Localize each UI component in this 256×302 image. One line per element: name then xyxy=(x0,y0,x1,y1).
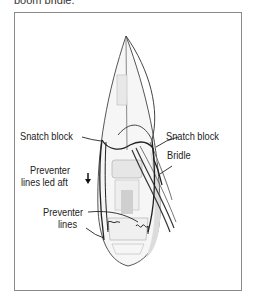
label-bridle: Bridle xyxy=(167,149,191,161)
arrow-down-icon xyxy=(85,173,91,184)
label-preventer-lines-1: Preventer xyxy=(43,206,83,218)
label-preventer-lines-2: lines xyxy=(58,218,77,230)
label-preventer-led-aft-1: Preventer xyxy=(30,164,70,176)
label-snatch-block-right: Snatch block xyxy=(166,130,219,142)
label-preventer-led-aft-2: lines led aft xyxy=(21,176,68,188)
sailboat-illustration xyxy=(0,0,256,302)
label-snatch-block-left: Snatch block xyxy=(20,130,73,142)
